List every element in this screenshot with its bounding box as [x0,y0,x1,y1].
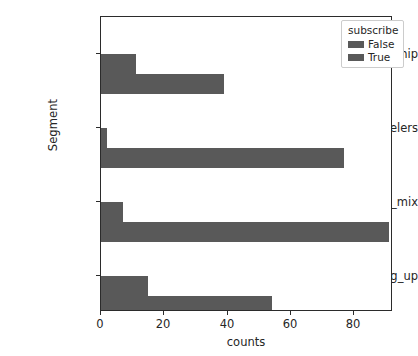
x-tick-label-0: 0 [80,317,120,331]
legend: subscribe False True [341,20,404,68]
x-tick-mark-4 [353,311,354,315]
x-tick-label-2: 40 [207,317,247,331]
legend-item-true: True [348,51,398,63]
x-tick-label-4: 80 [333,317,373,331]
bar-urban_hip-true [101,74,224,94]
bar-moving_up-true [101,296,272,310]
legend-item-false: False [348,38,398,50]
bar-urban_hip-false [101,54,136,74]
bar-travelers-true [101,148,344,168]
x-tick-mark-3 [290,311,291,315]
x-tick-label-1: 20 [143,317,183,331]
bar-travelers-false [101,128,107,148]
x-tick-mark-1 [163,311,164,315]
x-axis-label: counts [100,335,392,349]
legend-swatch-false [348,41,364,48]
x-tick-mark-0 [100,311,101,315]
legend-label-true: True [368,51,390,63]
bar-suburb_mix-true [101,222,389,242]
bar-suburb_mix-false [101,202,123,222]
legend-swatch-true [348,54,364,61]
y-axis-label: Segment [46,70,60,180]
legend-label-false: False [368,38,394,50]
x-tick-label-3: 60 [270,317,310,331]
figure: Segment urban_hip travelers suburb_mix m… [0,0,418,356]
legend-title: subscribe [348,24,398,36]
x-tick-mark-2 [227,311,228,315]
bar-moving_up-false [101,276,148,296]
